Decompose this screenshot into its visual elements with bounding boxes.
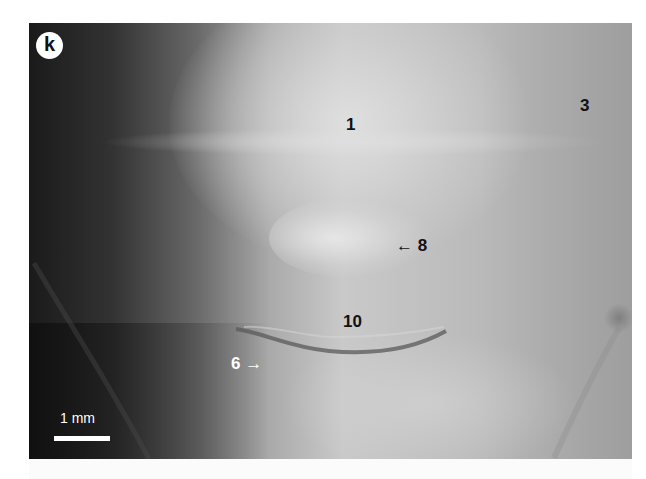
right-shading [482,23,632,459]
scale-bar [54,436,110,441]
label-3: 3 [580,96,589,116]
bottom-margin [29,459,632,479]
scale-bar-label: 1 mm [60,410,95,426]
jaw-contour [499,323,632,459]
cheek-dimple [604,303,632,333]
panel-label-badge: k [36,32,63,59]
chin-highlight [279,333,579,459]
forehead-highlight [169,23,529,263]
jaw-contour-left [29,23,229,459]
label-1: 1 [346,115,355,135]
label-8: ← 8 [396,236,427,256]
face-photograph [29,23,632,459]
label-6: 6 → [231,354,262,374]
label-10: 10 [343,312,362,332]
mouth-line [234,323,449,369]
